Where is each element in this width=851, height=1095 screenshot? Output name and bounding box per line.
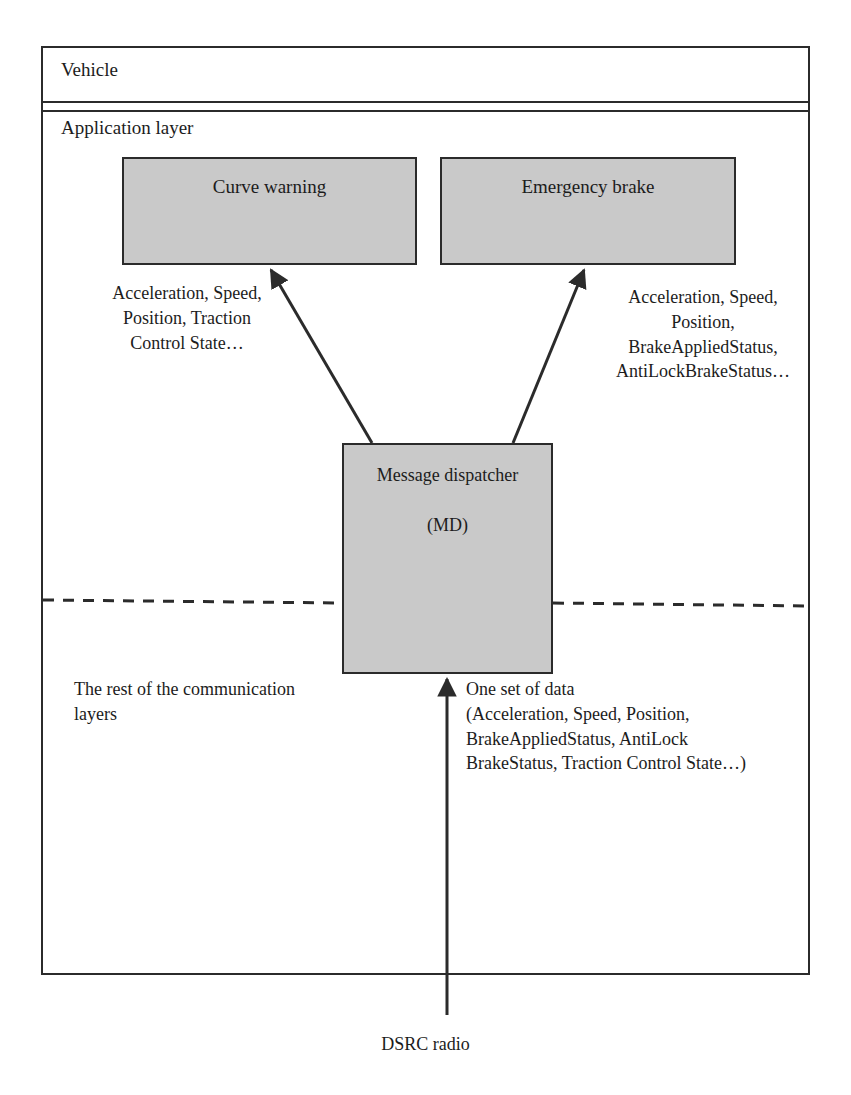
annotation-lower-layers: The rest of the communication layers bbox=[74, 677, 404, 727]
app-box-curve-warning-label: Curve warning bbox=[124, 176, 415, 198]
vehicle-label: Vehicle bbox=[61, 60, 118, 79]
application-layer-label: Application layer bbox=[61, 118, 193, 137]
header-divider-line-lower bbox=[41, 110, 810, 112]
dsrc-radio-label: DSRC radio bbox=[0, 1034, 851, 1055]
annotation-input-data: One set of data (Acceleration, Speed, Po… bbox=[466, 677, 806, 776]
figure-canvas: Vehicle Application layer Curve warning … bbox=[0, 0, 851, 1095]
annotation-left-data-flow: Acceleration, Speed, Position, Traction … bbox=[62, 281, 312, 355]
message-dispatcher-box: Message dispatcher (MD) bbox=[342, 443, 553, 674]
app-box-curve-warning: Curve warning bbox=[122, 157, 417, 265]
app-box-emergency-brake: Emergency brake bbox=[440, 157, 736, 265]
app-box-emergency-brake-label: Emergency brake bbox=[442, 176, 734, 198]
annotation-right-data-flow: Acceleration, Speed, Position, BrakeAppl… bbox=[578, 285, 828, 384]
message-dispatcher-name: Message dispatcher bbox=[344, 463, 551, 487]
header-divider-line-upper bbox=[41, 101, 810, 103]
message-dispatcher-abbreviation: (MD) bbox=[344, 515, 551, 537]
